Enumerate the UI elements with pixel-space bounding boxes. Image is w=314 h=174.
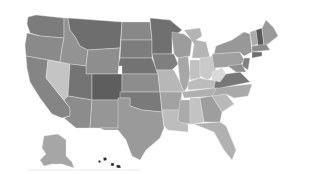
state-hi3[interactable] [111, 163, 114, 166]
states-layer [25, 15, 278, 168]
state-wy[interactable] [86, 48, 120, 74]
state-hi[interactable] [98, 160, 101, 163]
us-choropleth-map [0, 0, 314, 174]
state-hi4[interactable] [116, 165, 121, 168]
state-co[interactable] [92, 74, 122, 100]
state-ny[interactable] [214, 32, 252, 56]
state-sd[interactable] [120, 40, 152, 58]
state-nm[interactable] [90, 100, 120, 128]
state-ct[interactable] [252, 52, 262, 58]
state-ak[interactable] [40, 134, 74, 168]
state-ar[interactable] [160, 92, 182, 110]
state-me[interactable] [262, 20, 278, 46]
map-canvas [0, 0, 314, 174]
state-ne[interactable] [118, 58, 158, 74]
state-fl[interactable] [194, 122, 236, 160]
state-ms[interactable] [178, 100, 190, 124]
state-ia[interactable] [152, 54, 178, 70]
state-nd[interactable] [121, 22, 152, 40]
state-in[interactable] [190, 60, 200, 80]
state-ks[interactable] [122, 74, 160, 92]
state-hi2[interactable] [103, 157, 107, 161]
